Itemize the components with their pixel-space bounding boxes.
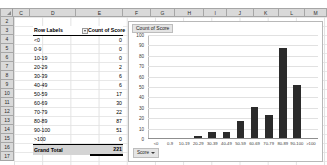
row-header-5[interactable]: 5 — [0, 44, 14, 53]
bin-label: <0 — [33, 36, 90, 45]
chart-bar — [293, 85, 301, 138]
value-field-header: Count of Score — [88, 26, 126, 35]
x-tick-label: 10-19 — [177, 139, 191, 148]
y-tick-label: 50 — [139, 85, 144, 90]
row-header-6[interactable]: 6 — [0, 53, 14, 62]
row-header-3[interactable]: 3 — [0, 26, 14, 35]
row-header-10[interactable]: 10 — [0, 89, 14, 98]
bin-count: 17 — [90, 90, 123, 99]
bin-label: 70-79 — [33, 108, 90, 117]
bin-label: 40-49 — [33, 81, 90, 90]
column-header-M[interactable]: M — [305, 8, 327, 17]
chart-bar-cell — [177, 35, 191, 138]
y-tick-label: 20 — [139, 116, 144, 121]
table-row[interactable]: 70-79 22 — [33, 108, 123, 117]
chart-bar — [194, 136, 202, 138]
column-header-D[interactable]: D — [30, 8, 76, 17]
bin-label: 0-9 — [33, 45, 90, 54]
row-header-7[interactable]: 7 — [0, 62, 14, 71]
x-tick-label: 0-9 — [163, 139, 177, 148]
row-header-11[interactable]: 11 — [0, 98, 14, 107]
table-row[interactable]: <0 0 — [33, 36, 123, 45]
y-tick-label: 30 — [139, 105, 144, 110]
bin-label: 20-29 — [33, 63, 90, 72]
x-axis: <00-910-1920-2930-3940-4950-5960-6970-79… — [149, 139, 318, 148]
bin-label: 50-59 — [33, 90, 90, 99]
column-header-J[interactable]: J — [227, 8, 253, 17]
row-header-2[interactable]: 2 — [0, 17, 14, 26]
column-header-H[interactable]: H — [175, 8, 204, 17]
chart-bar-cell — [219, 35, 233, 138]
table-row[interactable]: 30-39 6 — [33, 72, 123, 81]
column-header-L[interactable]: L — [279, 8, 305, 17]
pivot-table[interactable]: Row Labels Count of Score <0 0 0-9 0 10-… — [33, 26, 123, 155]
column-header-F[interactable]: F — [123, 8, 150, 17]
chart-bar-cell — [248, 35, 262, 138]
row-header-12[interactable]: 12 — [0, 107, 14, 116]
chart-bar — [279, 48, 287, 138]
table-row[interactable]: >100 0 — [33, 135, 123, 144]
table-row[interactable]: 80-89 87 — [33, 117, 123, 126]
column-header-G[interactable]: G — [151, 8, 176, 17]
bin-count: 30 — [90, 99, 123, 108]
column-header-K[interactable]: K — [254, 8, 279, 17]
table-row[interactable]: 50-59 17 — [33, 90, 123, 99]
row-header-4[interactable]: 4 — [0, 35, 14, 44]
grand-total-row[interactable]: Grand Total 221 — [33, 144, 123, 155]
table-row[interactable]: 60-69 30 — [33, 99, 123, 108]
bin-count: 0 — [90, 45, 123, 54]
column-header-C[interactable]: C — [13, 8, 30, 17]
chart-plot-area: 100 90 80 70 60 50 40 30 20 10 0 — [148, 35, 318, 139]
x-tick-label: 20-29 — [191, 139, 205, 148]
bin-count: 0 — [90, 135, 123, 144]
filter-dropdown-icon — [82, 28, 88, 34]
chart-bar-cell — [262, 35, 276, 138]
table-row[interactable]: 20-29 2 — [33, 63, 123, 72]
y-tick-label: 60 — [139, 74, 144, 79]
row-header-8[interactable]: 8 — [0, 71, 14, 80]
x-tick-label: >100 — [304, 139, 318, 148]
chart-bar — [237, 121, 245, 139]
select-all-triangle-icon — [7, 11, 11, 15]
row-labels-header: Row Labels — [33, 26, 81, 35]
bin-count: 0 — [90, 36, 123, 45]
chart-bar-cell — [233, 35, 247, 138]
row-header-9[interactable]: 9 — [0, 80, 14, 89]
bin-count: 87 — [90, 117, 123, 126]
table-row[interactable]: 40-49 6 — [33, 81, 123, 90]
row-header-17[interactable]: 17 — [0, 152, 14, 161]
x-tick-label: 80-89 — [276, 139, 290, 148]
select-all-button[interactable] — [0, 8, 13, 17]
table-row[interactable]: 90-100 51 — [33, 126, 123, 135]
x-tick-label: 50-59 — [233, 139, 247, 148]
pivot-header-row: Row Labels Count of Score — [33, 26, 123, 36]
column-header-E[interactable]: E — [76, 8, 123, 17]
y-tick-label: 0 — [141, 137, 144, 142]
y-tick-label: 70 — [139, 64, 144, 69]
table-row[interactable]: 0-9 0 — [33, 45, 123, 54]
pivot-chart[interactable]: Count of Score 100 90 80 70 60 50 40 30 … — [128, 21, 323, 162]
row-header-14[interactable]: 14 — [0, 125, 14, 134]
chart-bars — [149, 35, 318, 138]
x-tick-label: 40-49 — [219, 139, 233, 148]
grand-total-label: Grand Total — [33, 145, 90, 155]
bin-label: 60-69 — [33, 99, 90, 108]
bin-count: 2 — [90, 63, 123, 72]
row-labels-filter-button[interactable] — [81, 26, 88, 35]
y-tick-label: 10 — [139, 126, 144, 131]
x-tick-label: 70-79 — [262, 139, 276, 148]
chart-bar — [208, 132, 216, 138]
chevron-down-icon — [151, 152, 155, 154]
row-header-column: 2 3 4 5 6 7 8 9 10 11 12 13 14 15 16 17 — [0, 17, 14, 161]
bin-count: 6 — [90, 81, 123, 90]
chart-bar — [223, 132, 231, 138]
row-header-16[interactable]: 16 — [0, 143, 14, 152]
chart-bar — [265, 115, 273, 138]
column-header-I[interactable]: I — [204, 8, 227, 17]
row-header-15[interactable]: 15 — [0, 134, 14, 143]
y-tick-label: 40 — [139, 95, 144, 100]
row-header-13[interactable]: 13 — [0, 116, 14, 125]
chart-field-button-score[interactable]: Score — [133, 148, 159, 158]
chart-bar-cell — [276, 35, 290, 138]
table-row[interactable]: 10-19 0 — [33, 54, 123, 63]
